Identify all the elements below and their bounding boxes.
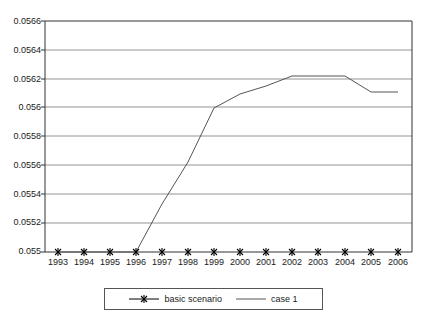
gridlines <box>45 50 412 223</box>
chart-legend: basic scenario case 1 <box>104 288 323 310</box>
legend-label-basic-scenario: basic scenario <box>164 295 222 304</box>
legend-item-case-1[interactable]: case 1 <box>236 294 298 304</box>
legend-item-basic-scenario[interactable]: basic scenario <box>129 294 222 304</box>
legend-swatch-line-with-x-marker <box>129 294 159 304</box>
series-line-case-1 <box>58 76 398 252</box>
plot-area <box>0 0 427 322</box>
legend-swatch-plain-line <box>236 294 266 304</box>
y-axis-ticks <box>41 21 45 252</box>
x-axis-tick-label: 2006 <box>378 258 418 267</box>
legend-label-case-1: case 1 <box>271 295 298 304</box>
line-chart: 0.0566 0.0564 0.0562 0.056 0.0558 0.0556… <box>0 0 427 322</box>
